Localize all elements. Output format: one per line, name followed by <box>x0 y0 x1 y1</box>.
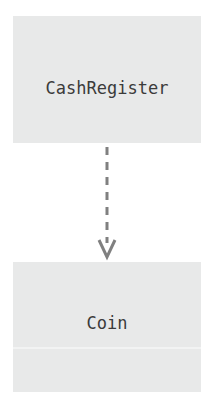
dependency-arrowhead <box>99 240 115 257</box>
class-compartment-divider <box>13 347 201 349</box>
class-name-coin: Coin <box>13 313 201 333</box>
class-name-cashregister: CashRegister <box>13 78 201 98</box>
class-box-coin[interactable]: Coin <box>13 262 201 392</box>
class-box-cashregister[interactable]: CashRegister <box>13 16 201 143</box>
uml-diagram-canvas: CashRegister Coin <box>0 0 214 408</box>
